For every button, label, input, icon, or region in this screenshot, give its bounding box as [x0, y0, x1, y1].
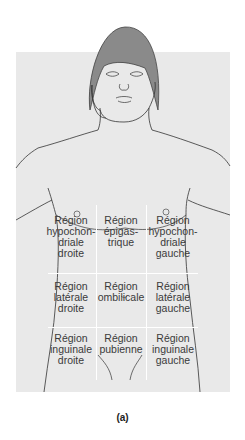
- neck-right: [149, 108, 152, 130]
- left-eye: [106, 72, 119, 77]
- grid-line-horizontal-upper: [48, 273, 198, 274]
- region-hypochondriale-droite: Région hypochon- driale droite: [45, 215, 97, 259]
- region-label-line: gauche: [147, 303, 199, 314]
- shoulder-left: [16, 130, 98, 168]
- nose: [119, 84, 128, 90]
- region-label-line: trique: [95, 237, 147, 248]
- region-ombilicale: Région ombilicale: [95, 281, 147, 303]
- hair: [89, 27, 158, 110]
- arm-right: [188, 200, 230, 215]
- region-label-line: droite: [45, 355, 97, 366]
- region-inguinale-gauche: Région inguinale gauche: [147, 333, 199, 366]
- grid-line-horizontal-lower: [48, 327, 198, 328]
- region-laterale-gauche: Région latérale gauche: [147, 281, 199, 314]
- region-hypochondriale-gauche: Région hypochon- driale gauche: [147, 215, 199, 259]
- region-label-line: gauche: [147, 355, 199, 366]
- region-label-line: droite: [45, 303, 97, 314]
- figure-caption: (a): [0, 412, 245, 423]
- region-inguinale-droite: Région inguinale droite: [45, 333, 97, 366]
- groin-right: [130, 355, 142, 380]
- region-laterale-droite: Région latérale droite: [45, 281, 97, 314]
- region-epigastrique: Région épigas- trique: [95, 215, 147, 248]
- neck-left: [98, 108, 100, 130]
- region-pubienne: Région pubienne: [95, 333, 147, 355]
- region-label-line: pubienne: [95, 344, 147, 355]
- region-label-line: gauche: [147, 248, 199, 259]
- shoulder-right: [152, 130, 230, 166]
- region-label-line: ombilicale: [95, 292, 147, 303]
- face-outline: [92, 82, 156, 122]
- groin-left: [98, 355, 112, 380]
- region-label-line: droite: [45, 248, 97, 259]
- right-eye: [130, 72, 143, 77]
- mouth: [116, 97, 132, 103]
